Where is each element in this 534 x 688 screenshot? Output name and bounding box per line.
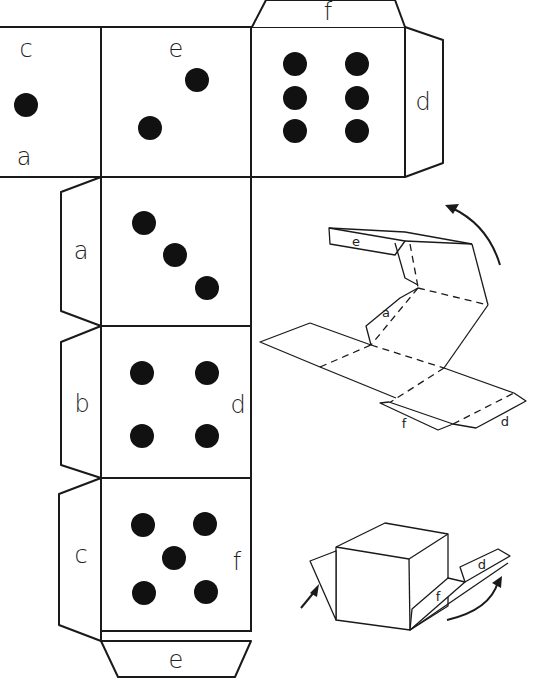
diagram-canvas: c a e f d a (0, 0, 534, 688)
pip (283, 86, 307, 110)
tab-bottom-e: e (101, 641, 251, 677)
tab-left-c: c (59, 478, 101, 641)
face-three (101, 177, 251, 326)
pip (132, 581, 156, 605)
label-f: f (233, 548, 242, 576)
pip (163, 243, 187, 267)
pip (195, 276, 219, 300)
pip (345, 52, 369, 76)
pip (193, 512, 217, 536)
pip (131, 513, 155, 537)
pip (195, 361, 219, 385)
tab-left-a: a (61, 177, 101, 326)
label-a: a (17, 143, 32, 171)
pip (195, 424, 219, 448)
face-six (251, 27, 405, 177)
label-d: d (478, 557, 486, 572)
label-d: d (230, 391, 245, 419)
label-a: a (382, 305, 390, 320)
label-f: f (324, 0, 333, 26)
fold-arrow-icon (452, 208, 500, 265)
face-four: d (101, 326, 251, 478)
pip (283, 52, 307, 76)
tab-top-f: f (252, 0, 405, 27)
label-d: d (415, 88, 430, 116)
flap-f (380, 402, 453, 430)
pip (345, 119, 369, 143)
pip (138, 116, 162, 140)
face-five: f (101, 478, 251, 631)
fold-step-1-illustration: e a f d (260, 204, 526, 431)
pip (194, 580, 218, 604)
tab-right-d: d (405, 27, 443, 177)
face-two: e (101, 27, 251, 177)
tab-left-b: b (61, 326, 101, 478)
arrowhead-icon (445, 204, 459, 214)
label-b: b (74, 390, 89, 418)
label-c: c (74, 541, 87, 569)
label-a: a (74, 237, 89, 265)
label-d: d (501, 414, 509, 429)
face-one: c a (0, 27, 101, 177)
label-e: e (352, 234, 360, 249)
fold-step-2-illustration: f d (301, 523, 510, 630)
pip (185, 68, 209, 92)
left-flap (310, 551, 336, 620)
flap-d (453, 393, 526, 428)
label-f: f (402, 416, 407, 431)
pip (345, 86, 369, 110)
label-e: e (169, 35, 184, 63)
label-f: f (436, 589, 441, 604)
pip (162, 546, 186, 570)
pip (14, 93, 38, 117)
pip (283, 119, 307, 143)
pip (130, 424, 154, 448)
label-c: c (19, 35, 32, 63)
die-net-diagram: c a e f d a (0, 0, 534, 688)
pip (130, 361, 154, 385)
flap-a (366, 288, 418, 345)
cube (336, 523, 448, 630)
label-e: e (169, 646, 184, 674)
pip (132, 211, 156, 235)
